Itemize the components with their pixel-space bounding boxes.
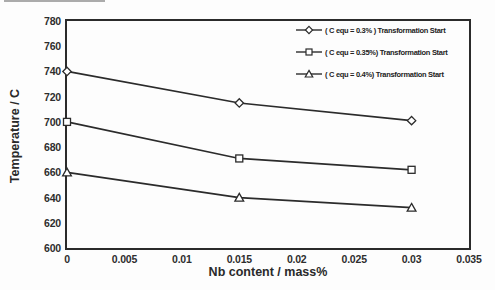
x-tick-label: 0.015 (214, 253, 264, 265)
legend-label: ( C equ = 0.4%) Transformation Start (325, 70, 444, 79)
series-line-1 (67, 122, 412, 170)
square-marker (236, 155, 243, 162)
diamond-marker (305, 26, 312, 33)
square-marker (408, 166, 415, 173)
series-line-2 (67, 172, 412, 207)
x-tick-label: 0.035 (444, 253, 494, 265)
y-axis-title: Temperature / C (8, 84, 22, 188)
x-tick-label: 0.01 (157, 253, 207, 265)
y-tick-label: 640 (0, 192, 61, 204)
legend-entry: ( C equ = 0.35%) Transformation Start (296, 41, 447, 63)
square-marker (306, 49, 312, 55)
square-marker (64, 118, 71, 125)
chart-legend: ( C equ = 0.3% ) Transformation Start( C… (296, 19, 447, 85)
legend-label: ( C equ = 0.35%) Transformation Start (325, 48, 447, 57)
x-tick-label: 0.02 (272, 253, 322, 265)
chart-figure: 600620640660680700720740760780 00.0050.0… (0, 0, 495, 290)
y-tick-label: 740 (0, 65, 61, 77)
legend-entry: ( C equ = 0.4%) Transformation Start (296, 63, 447, 85)
x-tick-label: 0 (42, 253, 92, 265)
y-tick-label: 780 (0, 15, 61, 27)
diamond-marker (235, 99, 243, 107)
x-tick-label: 0.03 (387, 253, 437, 265)
legend-diamond-marker-icon (296, 25, 322, 35)
scan-artifact-strip (4, 0, 105, 2)
y-tick-label: 760 (0, 40, 61, 52)
y-tick-label: 620 (0, 217, 61, 229)
legend-triangle-marker-icon (296, 69, 322, 79)
legend-label: ( C equ = 0.3% ) Transformation Start (325, 26, 445, 35)
x-tick-label: 0.025 (329, 253, 379, 265)
diamond-marker (407, 116, 415, 124)
x-tick-label: 0.005 (99, 253, 149, 265)
x-axis-title: Nb content / mass% (67, 265, 469, 279)
legend-entry: ( C equ = 0.3% ) Transformation Start (296, 19, 447, 41)
legend-square-marker-icon (296, 47, 322, 57)
